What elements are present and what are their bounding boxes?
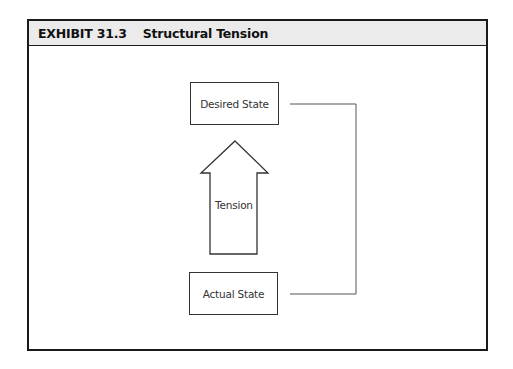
tension-label: Tension [215,199,253,211]
bracket-connector [290,104,356,294]
desired-state-label: Desired State [200,98,269,110]
actual-state-label: Actual State [203,288,265,300]
desired-state-box: Desired State [190,82,279,125]
tension-arrow-icon [201,141,268,254]
actual-state-box: Actual State [189,272,278,315]
